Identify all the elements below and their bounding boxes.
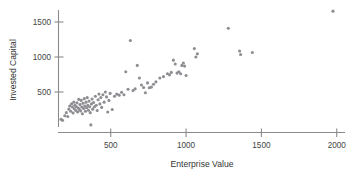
data-point [100, 106, 103, 109]
data-point-group [59, 10, 334, 127]
data-point [146, 81, 149, 84]
data-point [65, 111, 68, 114]
x-tick-label-1000: 1000 [177, 141, 196, 150]
data-point [84, 110, 87, 113]
data-point [124, 70, 127, 73]
data-point [107, 99, 110, 102]
data-point [152, 83, 155, 86]
data-point [95, 104, 98, 107]
data-point [251, 51, 254, 54]
data-point [97, 93, 100, 96]
x-axis-title: Enterprise Value [171, 159, 234, 169]
data-point [89, 111, 92, 114]
data-point [185, 74, 188, 77]
data-point [140, 83, 143, 86]
data-point [61, 119, 64, 122]
data-point [196, 52, 199, 55]
data-point [96, 109, 99, 112]
data-point [162, 75, 165, 78]
data-point [129, 39, 132, 42]
x-tick-label-1500: 1500 [252, 141, 271, 150]
data-point [63, 114, 66, 117]
data-point [97, 98, 100, 101]
data-point [98, 102, 101, 105]
data-point [81, 102, 84, 105]
data-point [194, 55, 197, 58]
y-axis-title: Invested Capital [8, 39, 18, 101]
data-point [75, 101, 78, 104]
data-point [127, 88, 130, 91]
data-point [134, 87, 137, 90]
y-tick-label-500: 500 [37, 88, 51, 97]
data-point [80, 99, 83, 102]
plot-area: 50010001500 500100015002000 Enterprise V… [0, 0, 356, 175]
y-tick-label-1000: 1000 [33, 53, 52, 62]
data-point [238, 50, 241, 53]
data-point [179, 72, 182, 75]
y-tick-label-1500: 1500 [33, 18, 52, 27]
data-point [86, 96, 89, 99]
data-point [81, 112, 84, 115]
data-point [111, 108, 114, 111]
x-axis-ticks: 500100015002000 [104, 129, 346, 151]
data-point [144, 91, 147, 94]
data-point [106, 110, 109, 113]
data-point [87, 100, 90, 103]
data-point [105, 95, 108, 98]
data-point [154, 80, 157, 83]
data-point [103, 101, 106, 104]
data-point [94, 95, 97, 98]
data-point [136, 64, 139, 67]
data-point [227, 27, 230, 30]
data-point [89, 123, 92, 126]
data-point [138, 76, 141, 79]
data-point [83, 97, 86, 100]
data-point [120, 91, 123, 94]
data-point [150, 86, 153, 89]
data-point [122, 93, 125, 96]
data-point [72, 111, 75, 114]
data-point [239, 53, 242, 56]
data-point [92, 101, 95, 104]
data-point [193, 47, 196, 50]
data-point [109, 92, 112, 95]
data-point [72, 101, 75, 104]
data-point [91, 97, 94, 100]
data-point [142, 86, 145, 89]
data-point [174, 62, 177, 65]
data-point [118, 94, 121, 97]
data-point [84, 101, 87, 104]
data-point [158, 76, 161, 79]
scatter-chart: 50010001500 500100015002000 Enterprise V… [0, 0, 356, 175]
x-tick-label-500: 500 [104, 141, 118, 150]
data-point [101, 93, 104, 96]
data-point [182, 61, 185, 64]
data-point [113, 95, 116, 98]
data-point [66, 115, 69, 118]
x-tick-label-2000: 2000 [328, 141, 347, 150]
data-point [331, 10, 334, 13]
data-point [172, 59, 175, 62]
data-point [99, 96, 102, 99]
data-point [104, 90, 107, 93]
data-point [79, 109, 82, 112]
data-point [170, 71, 173, 74]
data-point [88, 105, 91, 108]
data-point [183, 65, 186, 68]
